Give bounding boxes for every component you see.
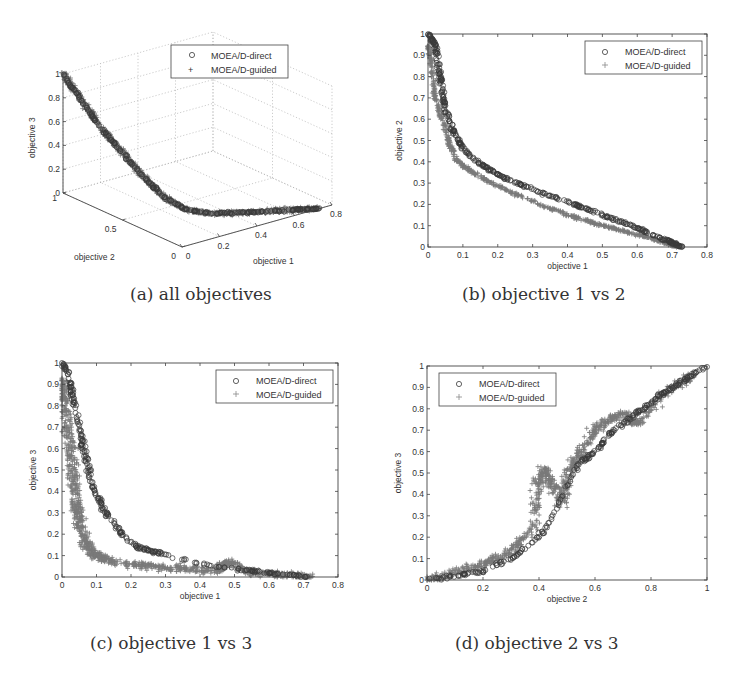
scatter-plot: 00.10.20.30.40.50.60.70.800.10.20.30.40.…: [394, 29, 713, 271]
y-tick-label: 1: [419, 361, 424, 371]
x-axis-label: objective 1: [253, 256, 294, 266]
y-tick-label: 0.6: [47, 444, 59, 454]
y-tick-label: 0.2: [413, 199, 425, 209]
panel-3d-all-objectives: 00.20.40.60.800.5100.20.40.60.81 objecti…: [27, 32, 342, 304]
panel-objective-1-vs-3: 00.10.20.30.40.50.60.70.800.10.20.30.40.…: [28, 358, 344, 653]
y-tick-label: 0.2: [47, 529, 59, 539]
z-tick-label: 0.4: [48, 140, 60, 150]
y-tick-label: 0.7: [413, 93, 425, 103]
x-axis-label: objective 1: [180, 591, 221, 601]
y-tick-label: 0.5: [412, 468, 424, 478]
y-tick-label: 0: [420, 242, 425, 252]
z-tick-label: 0.6: [48, 117, 60, 127]
y-axis-label: objective 3: [28, 449, 38, 490]
legend: MOEA/D-directMOEA/D-guided: [216, 370, 333, 403]
x-tick-label: 0.8: [645, 583, 657, 593]
x-tick-label: 0.8: [701, 250, 713, 260]
y-axis-label: objective 2: [74, 252, 115, 262]
x-tick-label: 0.1: [457, 250, 469, 260]
legend-label-guided: MOEA/D-guided: [211, 65, 277, 75]
y-tick-label: 0.6: [412, 447, 424, 457]
legend-label-direct: MOEA/D-direct: [625, 47, 686, 57]
x-tick-label: 0.3: [160, 580, 172, 590]
x-tick-label: 0.2: [218, 241, 230, 251]
x-tick-label: 0.4: [562, 250, 574, 260]
x-tick-label: 0.2: [492, 250, 504, 260]
x-tick-label: 0.2: [125, 580, 137, 590]
plus-marker-icon: +: [188, 65, 193, 75]
y-tick-label: 0.8: [47, 401, 59, 411]
y-tick-label: 1: [420, 29, 425, 39]
z-axis-label: objective 3: [27, 117, 37, 158]
x-tick-label: 0.5: [229, 580, 241, 590]
x-tick-label: 0: [426, 250, 431, 260]
panel-objective-2-vs-3: 00.20.40.60.8100.10.20.30.40.50.60.70.80…: [393, 361, 710, 653]
scatter-plot: 00.20.40.60.8100.10.20.30.40.50.60.70.80…: [393, 361, 710, 604]
x-tick-label: 0.1: [91, 580, 103, 590]
x-tick-label: 0: [186, 251, 191, 261]
scatter-plot: 00.10.20.30.40.50.60.70.800.10.20.30.40.…: [28, 358, 344, 601]
y-tick-label: 0.3: [412, 511, 424, 521]
legend: MOEA/D-directMOEA/D-guided: [585, 41, 702, 74]
z-tick-label: 0: [55, 188, 60, 198]
y-tick-label: 0.3: [47, 508, 59, 518]
scatter-points: [59, 70, 322, 218]
z-tick-label: 1: [55, 69, 60, 79]
x-tick-label: 0.3: [527, 250, 539, 260]
x-tick-label: 0.8: [330, 209, 342, 219]
x-tick-label: 0.6: [293, 220, 305, 230]
x-tick-label: 0.2: [477, 583, 489, 593]
x-tick-label: 0: [425, 583, 430, 593]
x-axis-label: objective 2: [547, 594, 588, 604]
3d-axes: 00.20.40.60.800.5100.20.40.60.81: [48, 69, 342, 261]
y-tick-label: 0.7: [47, 422, 59, 432]
y-tick-label: 0.4: [412, 489, 424, 499]
y-tick-label: 0.4: [413, 157, 425, 167]
x-tick-label: 0.4: [255, 230, 267, 240]
y-tick-label: 0.8: [412, 404, 424, 414]
y-tick-label: 0.7: [412, 425, 424, 435]
legend-label-guided: MOEA/D-guided: [625, 61, 691, 71]
x-tick-label: 1: [705, 583, 710, 593]
x-tick-label: 0.5: [596, 250, 608, 260]
legend-label-guided: MOEA/D-guided: [479, 393, 545, 403]
x-tick-label: 0: [60, 580, 65, 590]
legend-label-guided: MOEA/D-guided: [256, 390, 322, 400]
panel-objective-1-vs-2: 00.10.20.30.40.50.60.70.800.10.20.30.40.…: [394, 29, 713, 304]
y-tick-label: 0.8: [413, 72, 425, 82]
y-tick-label: 0: [171, 251, 176, 261]
y-tick-label: 0.1: [412, 554, 424, 564]
x-tick-label: 0.7: [298, 580, 310, 590]
legend-label-direct: MOEA/D-direct: [479, 379, 540, 389]
y-tick-label: 0: [419, 575, 424, 585]
caption-d: (d) objective 2 vs 3: [455, 633, 619, 653]
y-tick-label: 1: [54, 358, 59, 368]
x-tick-label: 0.4: [194, 580, 206, 590]
legend-label-direct: MOEA/D-direct: [256, 376, 317, 386]
x-axis-label: objective 1: [547, 261, 588, 271]
x-tick-label: 0.6: [263, 580, 275, 590]
legend-label-direct: MOEA/D-direct: [211, 51, 272, 61]
figure: 00.20.40.60.800.5100.20.40.60.81 objecti…: [0, 0, 738, 675]
y-tick-label: 0.4: [47, 486, 59, 496]
y-tick-label: 0.3: [413, 178, 425, 188]
y-tick-label: 0.1: [47, 551, 59, 561]
y-tick-label: 0.6: [413, 114, 425, 124]
legend: MOEA/D-direct + MOEA/D-guided: [171, 45, 288, 78]
x-tick-label: 0.6: [589, 583, 601, 593]
y-axis-label: objective 3: [393, 452, 403, 493]
y-tick-label: 0.9: [413, 50, 425, 60]
y-tick-label: 0.5: [47, 465, 59, 475]
y-tick-label: 0.9: [47, 379, 59, 389]
x-tick-label: 0.6: [631, 250, 643, 260]
legend: MOEA/D-directMOEA/D-guided: [439, 373, 556, 406]
z-tick-label: 0.8: [48, 93, 60, 103]
y-tick-label: 0.5: [413, 136, 425, 146]
x-tick-label: 0.8: [332, 580, 344, 590]
caption-b: (b) objective 1 vs 2: [462, 284, 626, 304]
y-tick-label: 0.2: [412, 532, 424, 542]
x-tick-label: 0.4: [533, 583, 545, 593]
y-tick-label: 0: [54, 572, 59, 582]
y-tick-label: 0.5: [105, 224, 117, 234]
y-tick-label: 0.1: [413, 221, 425, 231]
